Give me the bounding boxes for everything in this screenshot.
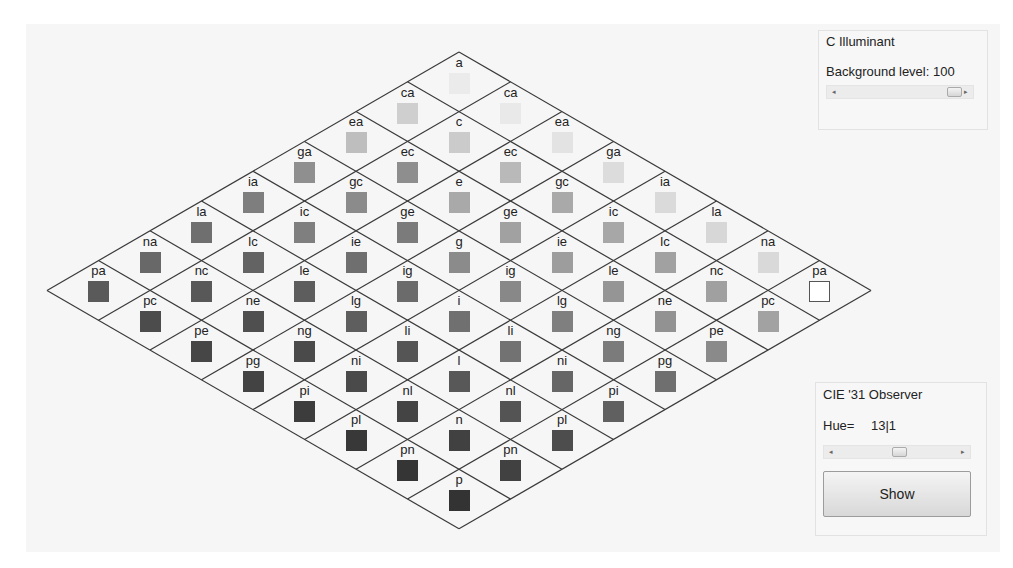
cell-label: ge: [503, 205, 517, 219]
cell-label: pg: [658, 354, 672, 368]
color-swatch[interactable]: [191, 281, 212, 302]
color-swatch[interactable]: [449, 252, 470, 273]
color-swatch[interactable]: [449, 192, 470, 213]
cell-label: ng: [297, 324, 311, 338]
cell-label: ig: [505, 264, 515, 278]
color-swatch[interactable]: [552, 132, 573, 153]
color-swatch[interactable]: [243, 371, 264, 392]
color-swatch[interactable]: [294, 222, 315, 243]
color-swatch[interactable]: [603, 341, 624, 362]
cell-label: ie: [557, 235, 567, 249]
cell-label: ia: [248, 175, 258, 189]
color-swatch[interactable]: [191, 341, 212, 362]
color-swatch[interactable]: [655, 192, 676, 213]
color-swatch[interactable]: [758, 252, 779, 273]
color-swatch[interactable]: [552, 311, 573, 332]
color-swatch[interactable]: [500, 281, 521, 302]
color-swatch[interactable]: [88, 281, 109, 302]
color-swatch[interactable]: [706, 341, 727, 362]
scroll-left-icon[interactable]: ◂: [825, 446, 837, 458]
color-swatch[interactable]: [603, 401, 624, 422]
color-swatch[interactable]: [449, 371, 470, 392]
color-swatch[interactable]: [346, 311, 367, 332]
color-swatch[interactable]: [294, 401, 315, 422]
hue-label: Hue=: [823, 418, 854, 433]
cell-label: pn: [400, 443, 414, 457]
color-swatch[interactable]: [603, 281, 624, 302]
color-swatch[interactable]: [758, 311, 779, 332]
color-swatch[interactable]: [397, 401, 418, 422]
cell-label: ca: [504, 86, 518, 100]
color-swatch[interactable]: [706, 281, 727, 302]
color-swatch[interactable]: [552, 252, 573, 273]
color-swatch[interactable]: [397, 341, 418, 362]
color-swatch[interactable]: [809, 281, 830, 302]
cell-label: nl: [505, 384, 515, 398]
color-swatch[interactable]: [346, 430, 367, 451]
color-swatch[interactable]: [500, 460, 521, 481]
cell-label: ea: [349, 115, 363, 129]
scroll-right-icon[interactable]: ▸: [960, 86, 972, 98]
scroll-left-icon[interactable]: ◂: [828, 86, 840, 98]
color-swatch[interactable]: [500, 162, 521, 183]
show-button[interactable]: Show: [823, 471, 971, 517]
cell-label: ga: [297, 145, 311, 159]
color-swatch[interactable]: [603, 222, 624, 243]
color-swatch[interactable]: [449, 73, 470, 94]
color-swatch[interactable]: [449, 490, 470, 511]
color-swatch[interactable]: [191, 222, 212, 243]
color-swatch[interactable]: [243, 192, 264, 213]
color-swatch[interactable]: [500, 222, 521, 243]
color-swatch[interactable]: [397, 222, 418, 243]
color-swatch[interactable]: [294, 162, 315, 183]
color-swatch[interactable]: [294, 281, 315, 302]
background-level-label: Background level: 100: [826, 64, 955, 79]
app-window: acacaeaceagaececgaiagcegcialaicgegeiclan…: [26, 24, 1000, 552]
color-swatch[interactable]: [603, 162, 624, 183]
color-swatch[interactable]: [397, 460, 418, 481]
color-swatch[interactable]: [552, 430, 573, 451]
color-swatch[interactable]: [500, 341, 521, 362]
color-swatch[interactable]: [655, 311, 676, 332]
color-swatch[interactable]: [706, 222, 727, 243]
color-swatch[interactable]: [655, 371, 676, 392]
color-swatch[interactable]: [243, 252, 264, 273]
scroll-right-icon[interactable]: ▸: [957, 446, 969, 458]
cell-label: lg: [557, 294, 567, 308]
cell-label: ne: [658, 294, 672, 308]
color-swatch[interactable]: [346, 252, 367, 273]
cell-label: nc: [710, 264, 724, 278]
cell-label: pi: [299, 384, 309, 398]
color-swatch[interactable]: [552, 192, 573, 213]
hue-scrollbar[interactable]: ◂ ▸: [823, 445, 971, 459]
color-swatch[interactable]: [243, 311, 264, 332]
cell-label: ga: [606, 145, 620, 159]
color-swatch[interactable]: [346, 371, 367, 392]
hue-thumb[interactable]: [892, 447, 907, 457]
color-swatch[interactable]: [449, 311, 470, 332]
color-swatch[interactable]: [655, 252, 676, 273]
cell-label: ni: [557, 354, 567, 368]
color-swatch[interactable]: [346, 132, 367, 153]
cell-label: gc: [349, 175, 363, 189]
color-swatch[interactable]: [500, 103, 521, 124]
hue-value: 13|1: [871, 418, 896, 433]
observer-panel: CIE '31 Observer Hue= 13|1 ◂ ▸ Show: [815, 382, 987, 536]
background-level-scrollbar[interactable]: ◂ ▸: [826, 85, 974, 99]
cell-label: pi: [608, 384, 618, 398]
cell-label: ni: [351, 354, 361, 368]
color-swatch[interactable]: [552, 371, 573, 392]
color-swatch[interactable]: [449, 132, 470, 153]
color-swatch[interactable]: [294, 341, 315, 362]
cell-label: l: [458, 354, 461, 368]
color-swatch[interactable]: [449, 430, 470, 451]
color-swatch[interactable]: [140, 252, 161, 273]
color-swatch[interactable]: [397, 281, 418, 302]
color-swatch[interactable]: [397, 162, 418, 183]
cell-label: pc: [143, 294, 157, 308]
color-swatch[interactable]: [397, 103, 418, 124]
color-swatch[interactable]: [346, 192, 367, 213]
cell-label: ia: [660, 175, 670, 189]
color-swatch[interactable]: [140, 311, 161, 332]
color-swatch[interactable]: [500, 401, 521, 422]
